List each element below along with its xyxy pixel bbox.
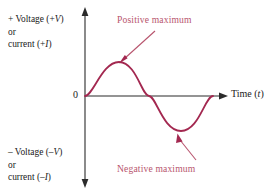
y-axis-negative-label-line1-prefix: – Voltage (– [8, 147, 53, 157]
y-axis-arrow-down-icon [82, 179, 89, 188]
x-axis-label-suffix: ) [260, 88, 263, 99]
y-axis-positive-label-line1-prefix: + Voltage (+ [8, 14, 55, 24]
y-axis-positive-label-line3: current (+I) [8, 38, 64, 51]
y-axis-positive-label-line3-prefix: current (+ [8, 39, 45, 49]
y-axis-arrow-up-icon [82, 7, 89, 16]
x-axis [85, 93, 228, 100]
positive-maximum-annotation-label: Positive maximum [117, 14, 192, 26]
y-axis-negative-label-line2: or [8, 159, 62, 172]
x-axis-label: Time (t) [231, 88, 264, 100]
y-axis-negative-label: – Voltage (–V) or current (–I) [8, 146, 62, 184]
y-axis-positive-label: + Voltage (+V) or current (+I) [8, 13, 64, 51]
y-axis-negative-label-line1-suffix: ) [59, 147, 62, 157]
negative-maximum-pointer [176, 134, 196, 161]
positive-maximum-pointer [119, 31, 155, 64]
y-axis-negative-label-line3: current (–I) [8, 171, 62, 184]
y-axis-negative-label-line3-suffix: ) [48, 172, 51, 182]
negative-maximum-annotation-label: Negative maximum [117, 163, 195, 175]
x-axis-arrow-right-icon [219, 93, 228, 100]
origin-label: 0 [73, 89, 78, 101]
y-axis-negative-label-line3-prefix: current (– [8, 172, 45, 182]
ac-waveform-figure: + Voltage (+V) or current (+I) – Voltage… [0, 0, 280, 192]
y-axis-negative-label-line1: – Voltage (–V) [8, 146, 62, 159]
y-axis-positive-label-line1: + Voltage (+V) [8, 13, 64, 26]
negative-maximum-leader-line [180, 140, 196, 160]
negative-maximum-arrowhead-icon [176, 134, 183, 143]
y-axis-positive-label-line3-suffix: ) [48, 39, 51, 49]
y-axis-positive-label-line1-suffix: ) [60, 14, 63, 24]
positive-maximum-leader-line [124, 31, 155, 59]
y-axis [82, 7, 89, 188]
y-axis-positive-label-line2: or [8, 26, 64, 39]
x-axis-label-prefix: Time ( [231, 88, 258, 99]
